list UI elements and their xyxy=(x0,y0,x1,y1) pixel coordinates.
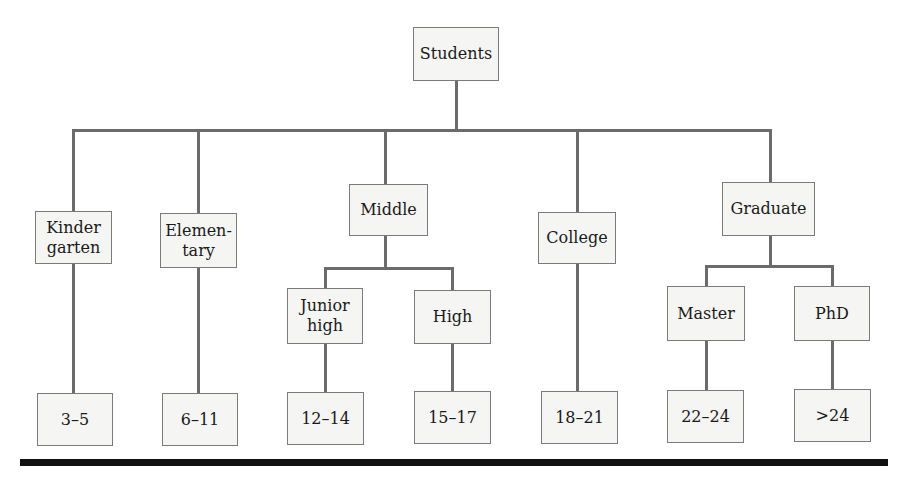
node-college: College xyxy=(538,212,616,264)
connector-main-bar xyxy=(72,129,772,132)
node-label: PhD xyxy=(815,304,849,324)
connector-kindergarten-age xyxy=(72,263,75,394)
age-label: 22–24 xyxy=(681,407,730,427)
connector-phd-age xyxy=(831,340,834,394)
connector-graduate xyxy=(769,129,772,183)
connector-high-age xyxy=(451,343,454,394)
node-label: Graduate xyxy=(731,199,807,219)
connector-elementary-age xyxy=(197,267,200,394)
node-kindergarten: Kinder garten xyxy=(35,211,112,264)
connector-junior-high-age xyxy=(324,343,327,394)
node-students: Students xyxy=(413,27,499,81)
age-junior-high: 12–14 xyxy=(287,392,364,445)
age-label: 6–11 xyxy=(181,410,220,430)
node-junior-high: Junior high xyxy=(287,288,363,344)
age-label: >24 xyxy=(816,406,850,426)
node-graduate: Graduate xyxy=(722,182,815,236)
connector-college-age xyxy=(576,263,579,394)
node-label: Junior high xyxy=(300,296,349,336)
connector-master xyxy=(705,265,708,287)
node-high: High xyxy=(414,290,491,344)
age-college: 18–21 xyxy=(541,391,618,444)
bottom-rule xyxy=(20,459,888,466)
node-label: Middle xyxy=(360,200,417,220)
node-label: Master xyxy=(677,304,735,324)
age-elementary: 6–11 xyxy=(162,393,238,446)
age-master: 22–24 xyxy=(667,390,744,443)
connector-elementary xyxy=(197,129,200,214)
node-master: Master xyxy=(667,286,745,341)
node-label: High xyxy=(433,307,473,327)
age-high: 15–17 xyxy=(414,391,491,444)
node-phd: PhD xyxy=(794,286,870,341)
connector-high xyxy=(451,267,454,291)
age-label: 3–5 xyxy=(61,410,89,430)
node-elementary: Elemen- tary xyxy=(160,213,237,268)
connector-phd xyxy=(831,265,834,287)
age-phd: >24 xyxy=(794,389,871,442)
connector-graduate-down xyxy=(769,235,772,267)
node-label: Kinder garten xyxy=(46,218,101,258)
node-label: Elemen- tary xyxy=(165,221,232,261)
age-label: 12–14 xyxy=(301,409,350,429)
age-label: 15–17 xyxy=(428,408,477,428)
node-label: Students xyxy=(420,44,492,64)
connector-middle-bar xyxy=(324,267,454,270)
connector-middle-down xyxy=(384,235,387,269)
connector-kindergarten xyxy=(72,129,75,212)
connector-middle xyxy=(384,129,387,185)
node-label: College xyxy=(546,228,607,248)
age-kindergarten: 3–5 xyxy=(37,393,113,446)
connector-junior-high xyxy=(324,267,327,289)
connector-root xyxy=(455,80,458,132)
connector-master-age xyxy=(705,340,708,394)
node-middle: Middle xyxy=(349,184,428,236)
connector-college xyxy=(576,129,579,213)
age-label: 18–21 xyxy=(555,408,604,428)
connector-graduate-bar xyxy=(705,265,834,268)
